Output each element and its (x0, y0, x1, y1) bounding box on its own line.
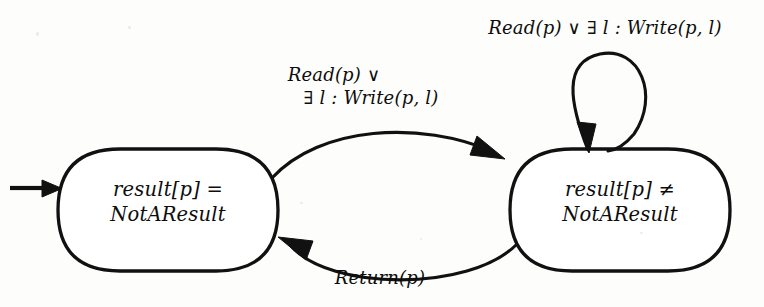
forward-transition-label-line-1: Read(p) ∨ (240, 63, 472, 86)
state-diagram: result[p] = NotAResult result[p] ≠ NotAR… (0, 0, 764, 307)
return-transition-label: Return(p) (272, 266, 488, 289)
scan-speck (300, 202, 303, 204)
scan-speck (420, 238, 422, 240)
scan-speck (36, 32, 39, 36)
state-label-line-1: result[p] ≠ (510, 178, 730, 203)
forward-transition-label-line-2: ∃ l : Write(p, l) (240, 86, 472, 109)
state-label-a-result: result[p] ≠ NotAResult (510, 178, 730, 228)
state-label-not-a-result: result[p] = NotAResult (58, 178, 278, 228)
diagram-graphics-layer (0, 0, 764, 307)
state-label-line-2: NotAResult (510, 203, 730, 228)
scan-speck (128, 26, 131, 29)
state-label-line-2: NotAResult (58, 203, 278, 228)
scan-speck (640, 232, 643, 234)
return-transition-arrow-head (278, 237, 313, 260)
self-loop-transition-label: Read(p) ∨ ∃ l : Write(p, l) (452, 16, 758, 39)
forward-transition-label: Read(p) ∨ ∃ l : Write(p, l) (240, 63, 472, 109)
forward-transition-curve[interactable] (272, 132, 494, 178)
state-label-line-1: result[p] = (58, 178, 278, 203)
forward-transition-arrow-head (470, 136, 505, 159)
